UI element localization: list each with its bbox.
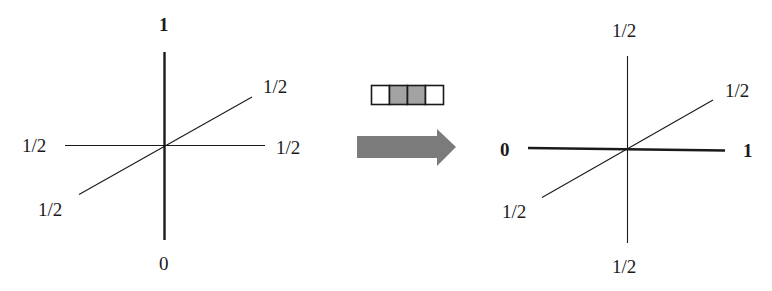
cell-2 [408, 86, 426, 105]
right-label-bottom: 1/2 [612, 257, 636, 277]
left-label-right: 1/2 [276, 138, 300, 158]
right-label-right: 1 [743, 141, 753, 161]
cell-1 [390, 86, 408, 105]
right-arrow-icon [357, 129, 456, 166]
left-label-diag-upper-right: 1/2 [263, 77, 287, 97]
right-horizontal-axis-bold [528, 148, 725, 151]
cell-0 [372, 86, 390, 105]
state-cells [372, 86, 444, 105]
right-axes [528, 56, 725, 243]
left-label-bottom: 0 [159, 254, 169, 274]
right-label-left: 0 [500, 140, 510, 160]
diagram-canvas [0, 0, 772, 291]
left-axes [65, 52, 265, 240]
left-label-top: 1 [159, 15, 169, 35]
right-label-top: 1/2 [612, 21, 636, 41]
left-label-diag-lower-left: 1/2 [38, 200, 62, 220]
cell-3 [426, 86, 444, 105]
left-label-left: 1/2 [22, 136, 46, 156]
right-label-diag-upper-right: 1/2 [725, 81, 749, 101]
right-label-diag-lower-left: 1/2 [502, 202, 526, 222]
